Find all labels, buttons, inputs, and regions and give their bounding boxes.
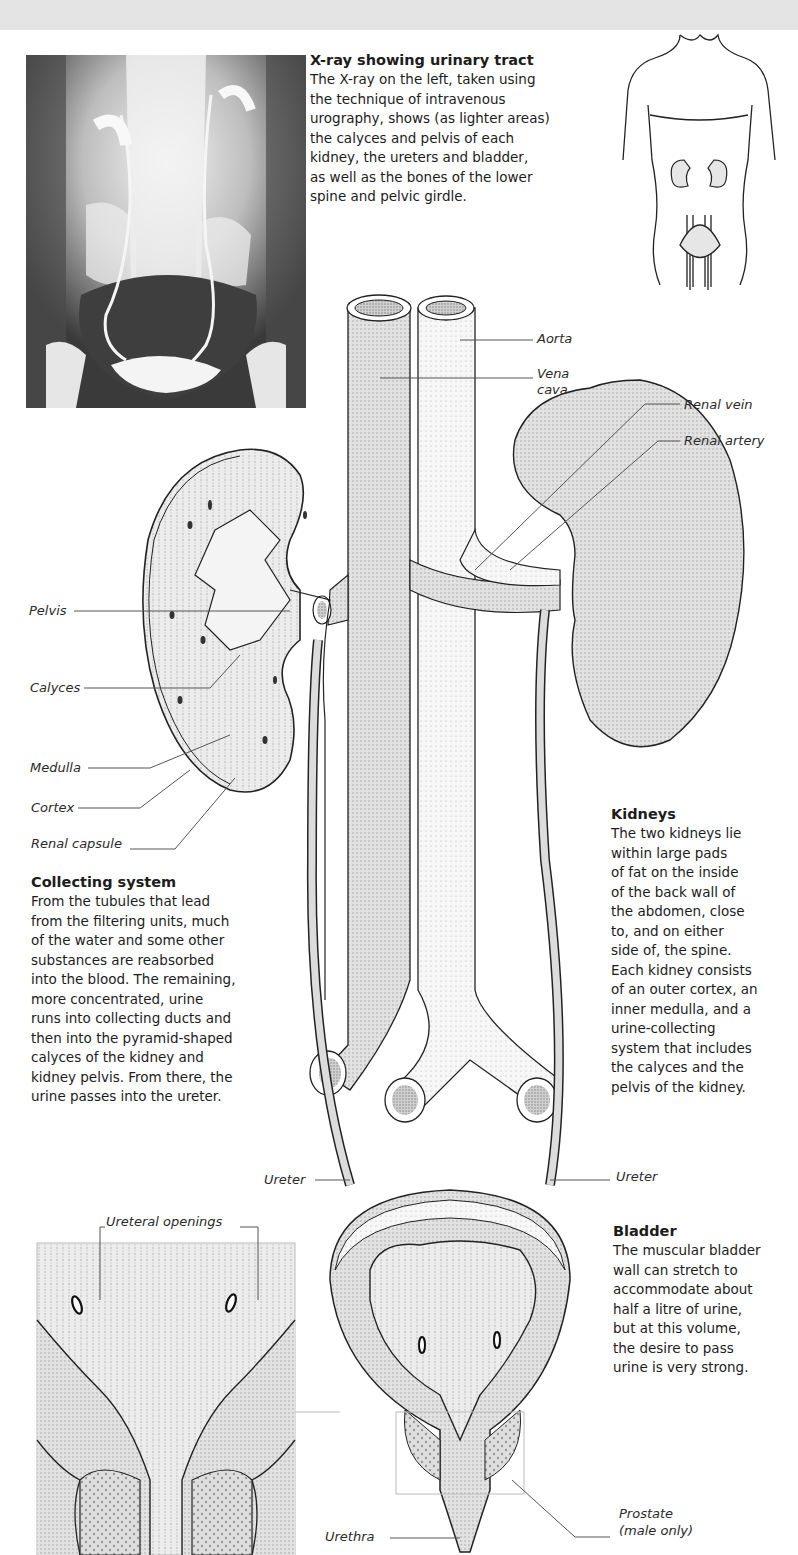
kidneys-description: Kidneys The two kidneys lie within large… (611, 805, 796, 1097)
kidneys-line: urine-collecting (611, 1019, 796, 1039)
renal-vein-illustration (410, 560, 560, 613)
kidneys-line: the abdomen, close (611, 902, 796, 922)
bladder-line: the desire to pass (613, 1339, 798, 1359)
label-vena-cava-line1: Vena (537, 366, 569, 382)
aorta-illustration (385, 296, 560, 1122)
right-ureter-illustration (540, 610, 559, 1185)
bladder-cross-section (330, 1190, 570, 1552)
collecting-line: substances are reabsorbed (31, 951, 281, 971)
xray-line: as well as the bones of the lower (310, 168, 590, 188)
bladder-line: half a litre of urine, (613, 1300, 798, 1320)
xray-line: urography, shows (as lighter areas) (310, 109, 590, 129)
kidneys-line: of an outer cortex, an (611, 980, 796, 1000)
xray-line: spine and pelvic girdle. (310, 187, 590, 207)
label-renal-artery: Renal artery (684, 433, 764, 449)
vena-cava-illustration (310, 295, 411, 1095)
label-aorta: Aorta (537, 331, 572, 347)
collecting-line: calyces of the kidney and (31, 1048, 281, 1068)
left-ureter-illustration (312, 640, 350, 1185)
label-medulla: Medulla (30, 760, 81, 776)
body-outline-figure (623, 35, 775, 290)
bladder-description: Bladder The muscular bladder wall can st… (613, 1222, 798, 1378)
kidneys-heading: Kidneys (611, 805, 796, 824)
collecting-line: urine passes into the ureter. (31, 1087, 281, 1107)
bladder-line: wall can stretch to (613, 1261, 798, 1281)
label-renal-capsule: Renal capsule (31, 836, 122, 852)
collecting-line: into the blood. The remaining, (31, 970, 281, 990)
label-cortex: Cortex (31, 800, 74, 816)
xray-line: The X-ray on the left, taken using (310, 70, 590, 90)
label-prostate-line1: Prostate (619, 1506, 673, 1522)
collecting-line: kidney pelvis. From there, the (31, 1068, 281, 1088)
collecting-system-description: Collecting system From the tubules that … (31, 873, 281, 1107)
kidneys-line: the calyces and the (611, 1058, 796, 1078)
kidneys-line: within large pads (611, 844, 796, 864)
xray-line: the technique of intravenous (310, 90, 590, 110)
kidneys-line: pelvis of the kidney. (611, 1078, 796, 1098)
collecting-line: more concentrated, urine (31, 990, 281, 1010)
bladder-heading: Bladder (613, 1222, 798, 1241)
kidneys-line: Each kidney consists (611, 961, 796, 981)
collecting-heading: Collecting system (31, 873, 281, 892)
kidneys-line: The two kidneys lie (611, 824, 796, 844)
top-band (0, 0, 798, 30)
bladder-line: but at this volume, (613, 1319, 798, 1339)
xray-description: X-ray showing urinary tract The X-ray on… (310, 51, 590, 207)
collecting-line: from the filtering units, much (31, 912, 281, 932)
bladder-line: The muscular bladder (613, 1241, 798, 1261)
collecting-line: runs into collecting ducts and (31, 1009, 281, 1029)
label-ureteral-openings: Ureteral openings (106, 1214, 222, 1230)
label-renal-vein: Renal vein (684, 397, 753, 413)
body-figure-kidneys (671, 160, 727, 187)
label-ureter-right: Ureter (616, 1169, 657, 1185)
collecting-line: then into the pyramid-shaped (31, 1029, 281, 1049)
xray-line: kidney, the ureters and bladder, (310, 148, 590, 168)
bladder-line: accommodate about (613, 1280, 798, 1300)
xray-image (26, 55, 306, 408)
collecting-line: From the tubules that lead (31, 892, 281, 912)
label-prostate-line2: (male only) (619, 1523, 693, 1539)
bladder-line: urine is very strong. (613, 1358, 798, 1378)
kidneys-line: side of, the spine. (611, 941, 796, 961)
xray-line: the calyces and pelvis of each (310, 129, 590, 149)
kidneys-line: of the back wall of (611, 883, 796, 903)
label-calyces: Calyces (30, 680, 80, 696)
label-urethra: Urethra (325, 1529, 375, 1545)
xray-heading: X-ray showing urinary tract (310, 51, 590, 70)
kidneys-line: to, and on either (611, 922, 796, 942)
bladder-detail-enlarged (37, 1243, 340, 1555)
collecting-line: of the water and some other (31, 931, 281, 951)
kidneys-line: inner medulla, and a (611, 1000, 796, 1020)
renal-artery-illustration (460, 530, 560, 586)
label-ureter-left: Ureter (264, 1172, 305, 1188)
label-vena-cava-line2: cava (537, 382, 568, 398)
kidneys-line: of fat on the inside (611, 863, 796, 883)
kidneys-line: system that includes (611, 1039, 796, 1059)
label-pelvis: Pelvis (29, 603, 67, 619)
